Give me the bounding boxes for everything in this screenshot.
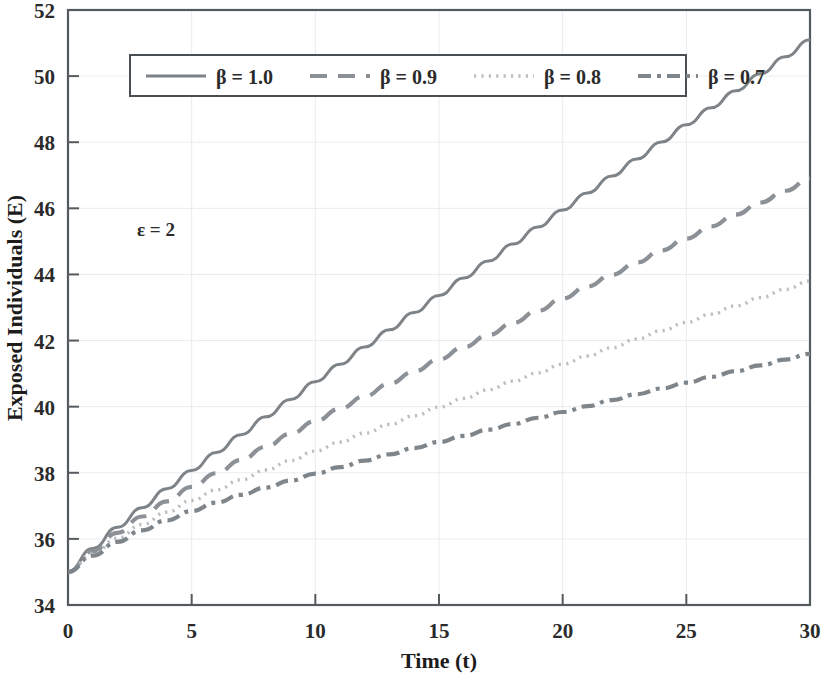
legend: β = 1.0β = 0.9β = 0.8β = 0.7 <box>130 55 765 96</box>
y-tick-label: 48 <box>34 131 55 155</box>
y-axis-title: Exposed Individuals (E) <box>2 195 27 421</box>
legend-label: β = 0.9 <box>380 66 437 89</box>
x-axis-title: Time (t) <box>401 648 477 673</box>
y-axis-title-label: Exposed Individuals (E) <box>2 195 27 421</box>
y-tick-label: 40 <box>34 396 55 420</box>
epsilon-annotation: ε = 2 <box>137 219 175 240</box>
legend-label: β = 0.8 <box>544 66 601 89</box>
exposed-individuals-line-chart: 34363840424446485052 051015202530 ε = 2 … <box>0 0 831 678</box>
legend-label: β = 0.7 <box>708 66 765 89</box>
epsilon-annotation-label: ε = 2 <box>137 219 175 240</box>
y-tick-label: 44 <box>34 263 56 287</box>
y-tick-labels: 34363840424446485052 <box>34 0 56 618</box>
y-tick-label: 52 <box>34 0 55 23</box>
y-tick-label: 46 <box>34 197 55 221</box>
x-tick-label: 25 <box>676 619 697 643</box>
x-tick-label: 10 <box>305 619 326 643</box>
x-tick-label: 5 <box>186 619 197 643</box>
x-axis-title-label: Time (t) <box>401 648 477 673</box>
y-axis-ticks <box>68 10 79 605</box>
y-tick-label: 34 <box>34 594 56 618</box>
y-tick-label: 50 <box>34 65 55 89</box>
x-tick-label: 0 <box>63 619 74 643</box>
y-tick-label: 38 <box>34 462 55 486</box>
legend-label: β = 1.0 <box>216 66 273 89</box>
x-tick-label: 30 <box>800 619 821 643</box>
x-tick-labels: 051015202530 <box>63 619 821 643</box>
x-tick-label: 20 <box>552 619 573 643</box>
x-tick-label: 15 <box>429 619 450 643</box>
x-axis-ticks <box>68 594 810 605</box>
y-tick-label: 36 <box>34 528 55 552</box>
y-tick-label: 42 <box>34 330 55 354</box>
figure-container: 34363840424446485052 051015202530 ε = 2 … <box>0 0 831 678</box>
